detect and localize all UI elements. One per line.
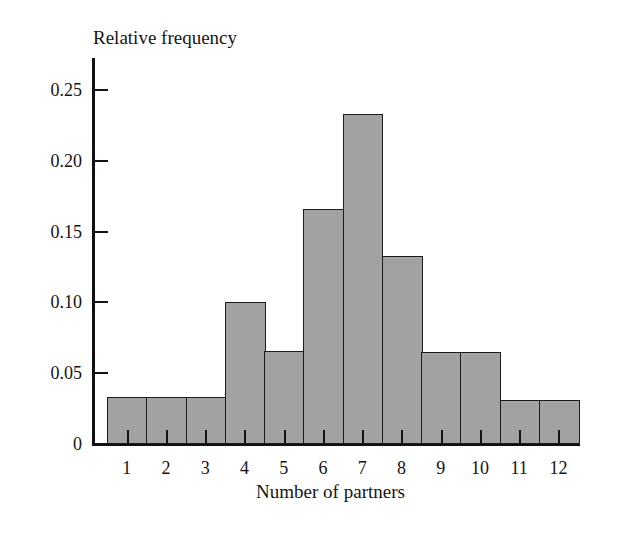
x-axis-tick-label: 2 bbox=[146, 459, 186, 477]
x-axis-tick bbox=[323, 430, 325, 444]
plot-area: 00.050.100.150.200.25 123456789101112 bbox=[0, 0, 629, 535]
x-axis-tick-label: 6 bbox=[303, 459, 343, 477]
x-axis-tick bbox=[558, 430, 560, 444]
x-axis-tick-label: 8 bbox=[381, 459, 421, 477]
histogram-chart: Relative frequency 00.050.100.150.200.25… bbox=[0, 0, 629, 535]
y-axis-tick-label: 0.25 bbox=[36, 81, 82, 99]
x-axis-tick-label: 3 bbox=[185, 459, 225, 477]
bar bbox=[225, 302, 266, 444]
bar bbox=[343, 114, 384, 444]
x-axis-tick bbox=[127, 430, 129, 444]
x-axis-tick-label: 12 bbox=[538, 459, 578, 477]
x-axis-tick-label: 9 bbox=[421, 459, 461, 477]
x-axis-tick bbox=[362, 430, 364, 444]
bar bbox=[382, 256, 423, 444]
x-axis-tick bbox=[519, 430, 521, 444]
x-axis-tick bbox=[480, 430, 482, 444]
x-axis-tick bbox=[166, 430, 168, 444]
x-axis-tick bbox=[284, 430, 286, 444]
x-axis-tick-label: 4 bbox=[224, 459, 264, 477]
x-axis-tick-label: 7 bbox=[342, 459, 382, 477]
x-axis-tick bbox=[244, 430, 246, 444]
x-axis-tick-label: 11 bbox=[499, 459, 539, 477]
x-axis-tick-label: 1 bbox=[107, 459, 147, 477]
x-axis-tick bbox=[441, 430, 443, 444]
y-axis-tick-label: 0.05 bbox=[36, 364, 82, 382]
y-axis-tick-label: 0 bbox=[36, 435, 82, 453]
y-axis-tick-label: 0.10 bbox=[36, 293, 82, 311]
bar bbox=[303, 209, 344, 444]
x-axis-tick bbox=[401, 430, 403, 444]
y-axis-tick-label: 0.20 bbox=[36, 152, 82, 170]
x-axis-title-label: Number of partners bbox=[256, 481, 405, 503]
x-axis-title: Number of partners bbox=[0, 481, 629, 503]
x-axis-tick-label: 10 bbox=[460, 459, 500, 477]
y-axis-tick-label: 0.15 bbox=[36, 223, 82, 241]
y-axis-line bbox=[92, 58, 95, 446]
x-axis-tick-label: 5 bbox=[264, 459, 304, 477]
x-axis-tick bbox=[205, 430, 207, 444]
bars-layer: 123456789101112 bbox=[107, 0, 578, 535]
